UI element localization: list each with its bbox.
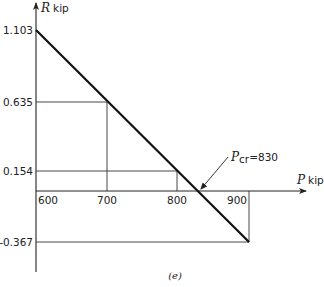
y-tick: -0.367 [0,236,33,248]
y-axis-label: Rkip [40,1,69,15]
y-tick: 0.635 [3,96,33,108]
pcr-leader-arrow [201,157,228,189]
x-tick: 900 [227,194,247,206]
y-tick: 1.103 [3,24,33,36]
chart: 1.103 0.635 0.154 -0.367 600 700 800 900… [0,0,324,287]
guide-900 [36,191,249,242]
guide-800 [36,171,177,191]
guide-700 [36,102,107,191]
guide-lines [36,102,249,242]
x-axis-label: Pkip [296,173,324,187]
figure-caption: (e) [168,270,182,281]
x-tick: 700 [97,194,117,206]
data-line [36,30,249,242]
x-tick: 800 [167,194,187,206]
y-tick: 0.154 [3,165,33,177]
pcr-annotation: Pcr=830 [230,150,278,165]
y-tick-labels: 1.103 0.635 0.154 -0.367 [0,24,33,248]
x-tick: 600 [38,194,58,206]
x-tick-labels: 600 700 800 900 [38,194,247,206]
